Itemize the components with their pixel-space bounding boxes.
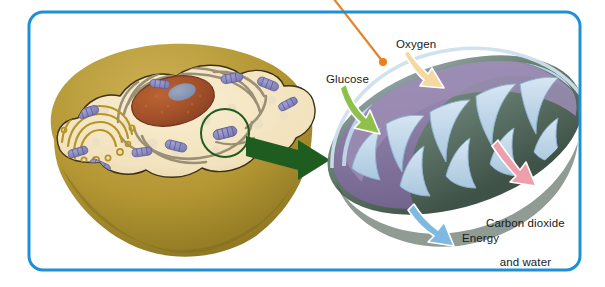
- label-carbon-dioxide-line1: Carbon dioxide: [486, 217, 565, 230]
- figure-canvas: Oxygen Glucose Carbon dioxide and water …: [0, 0, 605, 287]
- label-glucose: Glucose: [326, 73, 369, 86]
- label-oxygen: Oxygen: [396, 38, 436, 51]
- label-carbon-dioxide-line2: and water: [486, 256, 565, 269]
- label-energy: Energy: [462, 232, 499, 245]
